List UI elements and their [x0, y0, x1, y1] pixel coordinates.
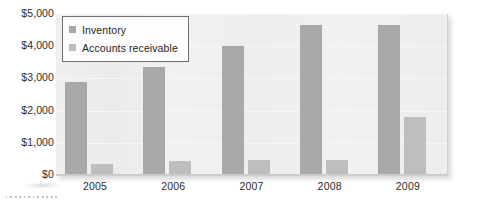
y-axis-tick-label: $0: [2, 169, 54, 180]
scan-artifact-dotted-line: [6, 196, 58, 198]
gridline: [56, 14, 447, 15]
y-axis: $0$1,000$2,000$3,000$4,000$5,000: [0, 0, 54, 205]
legend-label-inventory: Inventory: [82, 24, 126, 36]
bar-inventory-2007: [222, 46, 244, 175]
bar-inventory-2005: [65, 82, 87, 175]
bar-accounts-receivable-2007: [248, 160, 270, 175]
x-axis-tick-label: 2008: [291, 180, 369, 192]
chart-legend: Inventory Accounts receivable: [62, 16, 189, 62]
bar-inventory-2009: [378, 25, 400, 175]
y-axis-tick-label: $5,000: [2, 8, 54, 19]
bar-accounts-receivable-2009: [404, 117, 426, 175]
bar-accounts-receivable-2008: [326, 160, 348, 175]
y-axis-tick-label: $4,000: [2, 40, 54, 51]
x-axis-tick-label: 2007: [212, 180, 290, 192]
bar-inventory-2008: [300, 25, 322, 175]
x-axis-tick-label: 2009: [369, 180, 447, 192]
bar-inventory-2006: [143, 67, 165, 175]
x-axis-tick-label: 2006: [134, 180, 212, 192]
y-axis-tick-label: $3,000: [2, 72, 54, 83]
bar-accounts-receivable-2006: [169, 161, 191, 175]
axis-baseline: [56, 174, 447, 175]
legend-swatch-accounts-receivable-icon: [69, 44, 76, 51]
legend-swatch-inventory-icon: [69, 26, 76, 33]
chart-screenshot: $0$1,000$2,000$3,000$4,000$5,000 2005200…: [0, 0, 498, 205]
x-axis-tick-label: 2005: [56, 180, 134, 192]
y-axis-tick-label: $2,000: [2, 105, 54, 116]
y-axis-tick-label: $1,000: [2, 137, 54, 148]
scan-artifact-smudge: [22, 182, 62, 189]
legend-item-accounts-receivable: Accounts receivable: [69, 40, 178, 55]
legend-item-inventory: Inventory: [69, 22, 178, 37]
legend-label-accounts-receivable: Accounts receivable: [82, 42, 178, 54]
